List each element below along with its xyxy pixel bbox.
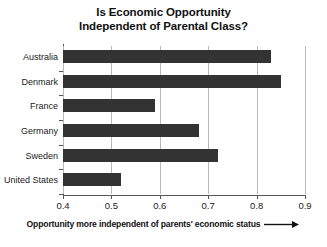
bar — [63, 124, 199, 137]
chart-title-line-2: Independent of Parental Class? — [0, 19, 327, 33]
plot-area — [63, 46, 305, 194]
axis-caption-label: Opportunity more independent of parents'… — [27, 219, 261, 229]
x-axis-tick — [160, 195, 161, 199]
axis-caption: Opportunity more independent of parents'… — [0, 219, 327, 229]
arrow-right-icon — [264, 220, 300, 229]
x-axis-tick-label: 0.6 — [140, 200, 180, 211]
x-axis-tick — [111, 195, 112, 199]
category-label: France — [0, 101, 58, 111]
gridline — [305, 46, 306, 194]
x-axis-tick-label: 0.7 — [188, 200, 228, 211]
x-axis-tick — [63, 195, 64, 199]
category-axis-tick — [59, 169, 63, 170]
x-axis-tick-label: 0.9 — [285, 200, 325, 211]
category-label: Australia — [0, 52, 58, 62]
bar — [63, 149, 218, 162]
category-label: United States — [0, 175, 58, 185]
bar — [63, 75, 281, 88]
x-axis-tick-label: 0.4 — [43, 200, 83, 211]
value-axis-line — [63, 195, 306, 196]
chart-title-line-1: Is Economic Opportunity — [0, 5, 327, 19]
category-axis-tick — [59, 95, 63, 96]
chart-title: Is Economic Opportunity Independent of P… — [0, 5, 327, 33]
x-axis-tick-label: 0.5 — [91, 200, 131, 211]
category-axis-tick — [59, 145, 63, 146]
gridline — [208, 46, 209, 194]
category-label: Germany — [0, 126, 58, 136]
category-axis-tick — [59, 194, 63, 195]
gridline — [257, 46, 258, 194]
x-axis-tick — [305, 195, 306, 199]
category-axis-tick — [59, 120, 63, 121]
x-axis-tick — [257, 195, 258, 199]
bar — [63, 173, 121, 186]
bar — [63, 50, 271, 63]
x-axis-tick — [208, 195, 209, 199]
category-axis-tick — [59, 71, 63, 72]
gridline — [63, 46, 64, 194]
bar — [63, 99, 155, 112]
category-label: Denmark — [0, 77, 58, 87]
category-label: Sweden — [0, 151, 58, 161]
gridline — [160, 46, 161, 194]
gridline — [111, 46, 112, 194]
x-axis-tick-label: 0.8 — [237, 200, 277, 211]
